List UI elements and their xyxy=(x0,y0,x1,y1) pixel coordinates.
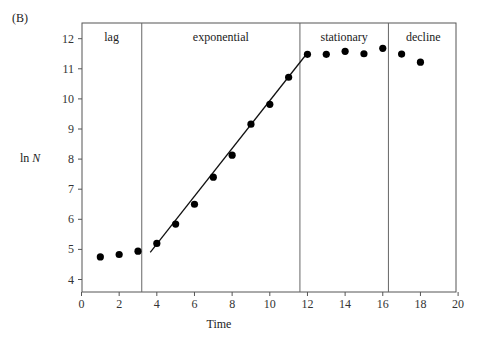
x-tick-label: 16 xyxy=(377,297,389,311)
data-point xyxy=(229,152,236,159)
y-tick-label: 12 xyxy=(62,32,74,46)
data-point xyxy=(266,101,273,108)
y-tick-label: 7 xyxy=(68,182,74,196)
data-point xyxy=(172,221,179,228)
y-tick-label: 11 xyxy=(62,62,74,76)
phase-label-exponential: exponential xyxy=(193,31,249,43)
x-tick-label: 6 xyxy=(191,297,197,311)
x-tick-label: 10 xyxy=(264,297,276,311)
data-point xyxy=(398,50,405,57)
x-tick-label: 14 xyxy=(339,297,351,311)
data-point xyxy=(342,48,349,55)
x-tick-label: 18 xyxy=(414,297,426,311)
phase-dividers xyxy=(142,23,389,292)
data-point xyxy=(116,251,123,258)
y-tick-label: 10 xyxy=(62,92,74,106)
phase-label-lag: lag xyxy=(104,31,119,43)
y-axis-label: ln N xyxy=(20,152,40,164)
data-point xyxy=(360,50,367,57)
data-point xyxy=(285,74,292,81)
growth-curve-chart: 02468101214161820 456789101112 xyxy=(0,0,477,345)
x-tick-label: 2 xyxy=(116,297,122,311)
y-axis-label-prefix: ln xyxy=(20,151,32,165)
data-points xyxy=(97,45,424,261)
data-point xyxy=(134,248,141,255)
y-tick-label: 4 xyxy=(68,273,74,287)
phase-label-decline: decline xyxy=(406,31,441,43)
data-point xyxy=(379,45,386,52)
y-tick-label: 9 xyxy=(68,122,74,136)
data-point xyxy=(304,51,311,58)
y-axis-label-variable: N xyxy=(32,151,40,165)
x-tick-label: 4 xyxy=(154,297,160,311)
data-point xyxy=(323,51,330,58)
data-point xyxy=(417,59,424,66)
x-tick-label: 0 xyxy=(79,297,85,311)
data-point xyxy=(247,121,254,128)
data-point xyxy=(210,174,217,181)
panel-label: (B) xyxy=(12,12,28,24)
y-tick-label: 8 xyxy=(68,152,74,166)
x-tick-label: 12 xyxy=(301,297,313,311)
x-tick-label: 8 xyxy=(229,297,235,311)
y-tick-label: 6 xyxy=(68,212,74,226)
y-tick-label: 5 xyxy=(68,242,74,256)
x-axis-label: Time xyxy=(207,318,232,330)
x-axis-ticks: 02468101214161820 xyxy=(79,292,465,311)
data-point xyxy=(191,201,198,208)
data-point xyxy=(97,253,104,260)
data-point xyxy=(153,240,160,247)
y-axis-ticks: 456789101112 xyxy=(62,32,82,287)
x-tick-label: 20 xyxy=(452,297,464,311)
phase-label-stationary: stationary xyxy=(321,31,368,43)
